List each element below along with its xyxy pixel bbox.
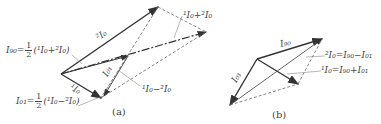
caption-b: (b) [272, 109, 286, 120]
i90-formula: I₉₀=12(¹I₀+²I₀) [6, 42, 70, 59]
figure-a-vectors [61, 7, 206, 106]
two-i0-equation: ²I₀=I₉₀−I₀₁ [325, 50, 372, 60]
diff-label: ¹I₀−²I₀ [142, 84, 171, 94]
figure-b-vectors [230, 39, 325, 105]
one-i0-equation: ¹I₀=I₉₀+I₀₁ [321, 65, 368, 75]
phasor-diagram: I₉₀=12(¹I₀+²I₀) I₀₁=12(¹I₀−²I₀) ²I₀ ¹I₀ … [0, 0, 381, 124]
sum-label: ¹I₀+²I₀ [183, 10, 212, 20]
i01-formula: I₀₁=12(¹I₀−²I₀) [16, 93, 80, 110]
caption-a: (a) [112, 106, 126, 117]
